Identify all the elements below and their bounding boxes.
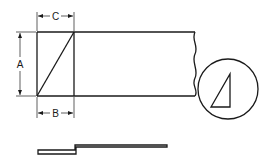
dim-b-label: B xyxy=(52,108,59,119)
technical-drawing: C A B xyxy=(0,0,265,167)
diagonal-cut-line xyxy=(37,32,74,96)
plate-top-view xyxy=(37,32,196,96)
dimension-b: B xyxy=(37,97,74,119)
detail-view xyxy=(198,59,258,119)
detail-circle xyxy=(198,59,258,119)
dim-c-label: C xyxy=(52,11,59,22)
dimension-a: A xyxy=(16,32,36,96)
dim-a-label: A xyxy=(17,59,24,70)
triangle-piece xyxy=(211,74,230,107)
plate-side-view xyxy=(38,145,167,154)
dimension-c: C xyxy=(37,11,74,31)
